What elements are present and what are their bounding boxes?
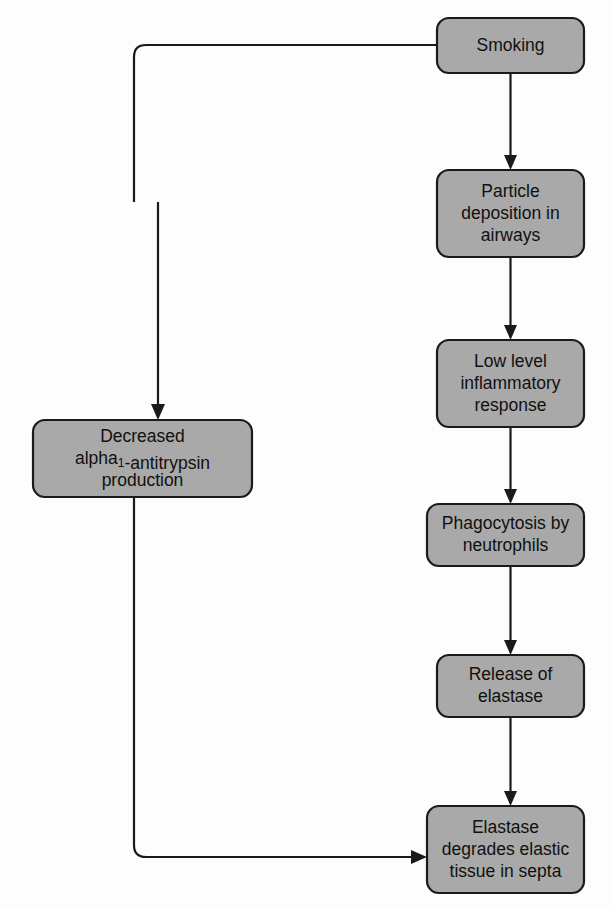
edge-arrowhead-icon xyxy=(411,850,427,864)
node-particle_deposition: Particledeposition inairways xyxy=(437,170,584,257)
edge-release-to-degrades xyxy=(504,717,517,806)
edge-arrowhead-icon xyxy=(151,404,165,420)
node-phagocytosis: Phagocytosis byneutrophils xyxy=(427,504,584,566)
edge-smoking-to-antitrypsin xyxy=(134,45,437,420)
edge-smoking-to-particle xyxy=(504,73,517,170)
edge-antitrypsin-to-degrades xyxy=(134,497,427,864)
edge-arrowhead-icon xyxy=(504,791,517,806)
flowchart-svg: SmokingParticledeposition inairwaysLow l… xyxy=(0,0,611,909)
edge-arrowhead-icon xyxy=(504,325,517,340)
node-decreased_antitrypsin: Decreasedalpha1-antitrypsinproduction xyxy=(33,420,252,497)
node-smoking: Smoking xyxy=(437,18,584,73)
node-elastase_degrades: Elastasedegrades elastictissue in septa xyxy=(427,806,584,893)
node-release_elastase: Release ofelastase xyxy=(437,655,584,717)
node-label: Low levelinflammatoryresponse xyxy=(460,350,560,414)
edge-line xyxy=(134,45,437,412)
flowchart-canvas: SmokingParticledeposition inairwaysLow l… xyxy=(0,0,611,909)
node-label: Smoking xyxy=(476,34,544,54)
edge-arrowhead-icon xyxy=(504,489,517,504)
edge-inflammatory-to-phagocytosis xyxy=(504,427,517,504)
edge-particle-to-inflammatory xyxy=(504,257,517,340)
edge-line xyxy=(134,497,419,857)
edge-arrowhead-icon xyxy=(504,155,517,170)
nodes-layer: SmokingParticledeposition inairwaysLow l… xyxy=(33,18,584,893)
edge-arrowhead-icon xyxy=(504,640,517,655)
edge-phagocytosis-to-release xyxy=(504,566,517,655)
node-inflammatory_response: Low levelinflammatoryresponse xyxy=(437,340,584,427)
